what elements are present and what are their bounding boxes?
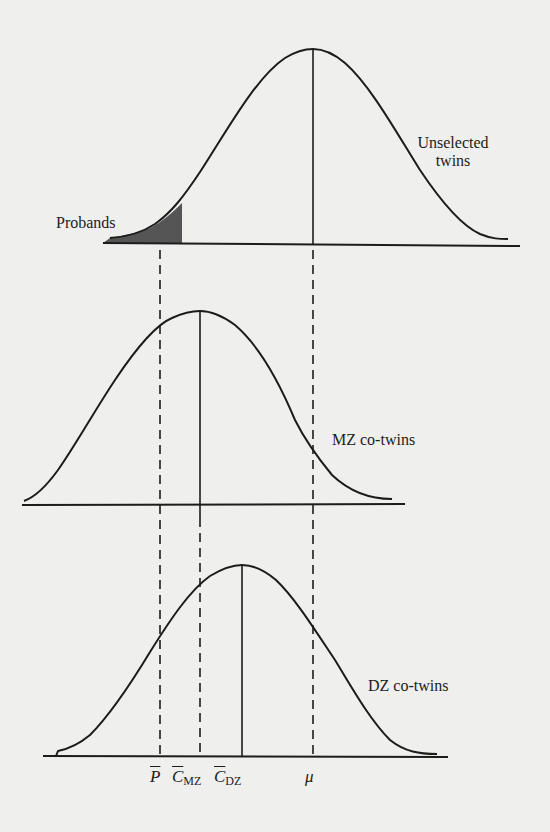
label-mz-cotwins: MZ co-twins	[332, 431, 415, 449]
axis-label-c-dz-subscript: DZ	[225, 774, 241, 788]
dz-cotwins-distribution	[43, 565, 448, 757]
axis-label-mu: μ	[305, 767, 314, 787]
curve-mz	[24, 311, 392, 501]
axis-label-p-bar: P	[150, 767, 160, 787]
baseline-unselected	[103, 243, 520, 246]
axis-label-c-mz-symbol: C	[172, 767, 183, 786]
axis-label-c-mz: CMZ	[172, 767, 201, 789]
label-probands: Probands	[56, 214, 116, 232]
axis-label-p-bar-symbol: P	[150, 767, 160, 786]
label-unselected-line2: twins	[410, 152, 496, 170]
axis-label-c-mz-subscript: MZ	[183, 774, 201, 788]
curve-dz	[56, 565, 437, 756]
label-unselected-line1: Unselected	[410, 134, 496, 152]
baseline-mz	[22, 504, 405, 505]
mz-cotwins-distribution	[22, 311, 405, 518]
twin-distribution-diagram	[0, 0, 550, 832]
baseline-dz	[43, 756, 448, 757]
axis-label-c-dz-symbol: C	[214, 767, 225, 786]
axis-label-mu-symbol: μ	[305, 767, 314, 786]
axis-label-c-dz: CDZ	[214, 767, 241, 789]
label-unselected-twins: Unselected twins	[410, 134, 496, 170]
label-dz-cotwins: DZ co-twins	[368, 677, 448, 695]
